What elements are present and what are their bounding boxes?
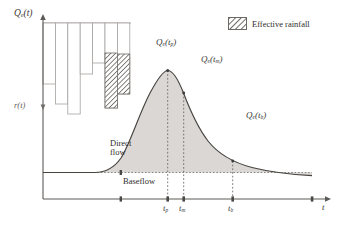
rainfall-axis-arrow bbox=[41, 105, 46, 111]
x-tick-tb bbox=[231, 196, 234, 201]
effective-rainfall-block bbox=[105, 53, 117, 108]
direct-flow-start-marker bbox=[120, 170, 122, 175]
x-tick-storm-start bbox=[120, 196, 122, 201]
x-tick-tm bbox=[182, 196, 185, 201]
rec-close: ) bbox=[263, 110, 266, 120]
effective-rainfall-block bbox=[117, 54, 129, 94]
x-axis-arrow bbox=[325, 196, 331, 202]
figure-canvas bbox=[0, 0, 341, 234]
x-axis-label-time: t bbox=[322, 203, 325, 212]
annotation-peak-discharge: Qe(tp) bbox=[156, 38, 176, 48]
x-tick-end bbox=[311, 196, 314, 201]
direct-flow-area bbox=[43, 71, 312, 176]
rainfall-bar bbox=[55, 23, 67, 104]
x-tick-label-tp: tp bbox=[163, 203, 168, 213]
tb-sub: b bbox=[230, 207, 233, 213]
y-axis-label-discharge: Qe(t) bbox=[14, 9, 32, 19]
y-axis-label-r-arg: (t) bbox=[17, 100, 25, 110]
x-tick-label-tm: tm bbox=[179, 203, 185, 213]
hydrograph-figure: Qe(t) r(t) t Qe(tp) Qe(tm) Qe(tb) Direct… bbox=[0, 0, 341, 234]
direct-flow-line-2: flow bbox=[110, 148, 131, 157]
x-tick-tp bbox=[166, 196, 169, 201]
tp-sub: p bbox=[165, 207, 168, 213]
hydrograph-group bbox=[43, 71, 312, 176]
label-direct-flow: Direct flow bbox=[110, 139, 131, 157]
y-axis-label-q-arg: (t) bbox=[23, 8, 32, 18]
y-axis-label-q: Q bbox=[14, 8, 21, 18]
point-marker-tp bbox=[166, 69, 169, 72]
rainfall-bar bbox=[80, 23, 92, 74]
y-axis-arrow bbox=[40, 14, 46, 20]
point-marker-tm bbox=[182, 92, 185, 95]
x-tick-label-tb: tb bbox=[228, 203, 233, 213]
point-marker-tb bbox=[231, 160, 234, 163]
legend-label-effective-rainfall: Effective rainfall bbox=[252, 19, 310, 29]
legend: Effective rainfall bbox=[228, 17, 310, 30]
annotation-recession-discharge: Qe(tb) bbox=[246, 111, 266, 121]
rainfall-bar bbox=[68, 23, 80, 114]
annotation-inflection-discharge: Qe(tm) bbox=[201, 55, 223, 65]
mid-close: ) bbox=[220, 54, 223, 64]
tm-sub: m bbox=[181, 207, 185, 213]
y-axis-label-rainfall: r(t) bbox=[14, 101, 25, 110]
hyetograph-group bbox=[43, 23, 131, 114]
label-baseflow: Baseflow bbox=[123, 177, 155, 186]
rainfall-bar bbox=[93, 23, 105, 63]
peak-close: ) bbox=[173, 37, 176, 47]
rainfall-bar bbox=[43, 23, 55, 84]
x-axis-group bbox=[43, 196, 331, 202]
effective-rainfall-swatch-icon bbox=[228, 17, 247, 30]
